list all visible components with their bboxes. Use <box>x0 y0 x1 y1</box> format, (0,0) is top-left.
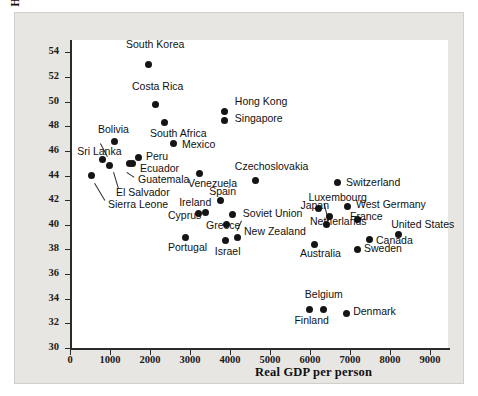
data-point[interactable] <box>152 101 159 108</box>
y-axis-line <box>70 40 72 350</box>
y-tick-mark <box>65 323 70 324</box>
data-point-label: Mexico <box>182 138 215 150</box>
data-point[interactable] <box>145 61 152 68</box>
data-point[interactable] <box>88 172 95 179</box>
y-tick-mark <box>65 151 70 152</box>
x-tick-label: 7000 <box>330 354 370 365</box>
data-point[interactable] <box>161 119 168 126</box>
data-point[interactable] <box>126 160 133 167</box>
data-point-label: El Salvador <box>116 186 170 198</box>
chart-figure: Hours of work per week 30323436384042444… <box>15 13 463 383</box>
x-tick-label: 0 <box>50 354 90 365</box>
x-tick-label: 2000 <box>130 354 170 365</box>
data-point[interactable] <box>306 306 313 313</box>
x-axis-title: Real GDP per person <box>255 365 372 380</box>
x-tick-label: 8000 <box>370 354 410 365</box>
y-tick-mark <box>65 274 70 275</box>
x-axis-line <box>70 348 450 350</box>
x-tick-label: 4000 <box>210 354 250 365</box>
y-tick-label: 36 <box>37 267 59 278</box>
data-point-label: Costa Rica <box>132 80 183 92</box>
y-axis-title-line1: Hours of work <box>9 0 22 31</box>
data-point-label: Ireland <box>179 196 211 208</box>
data-point[interactable] <box>343 310 350 317</box>
data-point[interactable] <box>221 117 228 124</box>
y-tick-label: 46 <box>37 144 59 155</box>
data-point[interactable] <box>170 140 177 147</box>
y-tick-label: 52 <box>37 70 59 81</box>
data-point-label: Israel <box>215 245 241 257</box>
data-point[interactable] <box>202 209 209 216</box>
data-point-label: Sierra Leone <box>108 198 168 210</box>
data-point-label: Japan <box>300 199 329 211</box>
data-point-label: Czechoslovakia <box>235 160 309 172</box>
y-tick-label: 44 <box>37 169 59 180</box>
data-point[interactable] <box>182 234 189 241</box>
data-point-label: Peru <box>146 150 168 162</box>
y-tick-mark <box>65 176 70 177</box>
x-tick-label: 6000 <box>290 354 330 365</box>
data-point[interactable] <box>135 154 142 161</box>
x-tick-label: 9000 <box>410 354 450 365</box>
y-axis-title: Hours of work per week <box>9 0 35 31</box>
data-point-label: South Korea <box>126 38 184 50</box>
y-tick-label: 30 <box>37 341 59 352</box>
data-point[interactable] <box>320 306 327 313</box>
y-tick-label: 34 <box>37 292 59 303</box>
data-point-label: Portugal <box>168 241 207 253</box>
y-tick-label: 50 <box>37 95 59 106</box>
data-point-label: Denmark <box>353 305 396 317</box>
data-point-label: Hong Kong <box>235 95 288 107</box>
y-tick-mark <box>65 126 70 127</box>
data-point-label: Australia <box>300 247 341 259</box>
data-point-label: New Zealand <box>244 225 306 237</box>
data-point-label: Bolivia <box>98 123 129 135</box>
data-point-label: Belgium <box>305 288 343 300</box>
data-point-label: Spain <box>209 185 236 197</box>
data-point-label: United States <box>391 218 454 230</box>
y-tick-label: 38 <box>37 242 59 253</box>
data-point[interactable] <box>111 138 118 145</box>
y-tick-mark <box>65 348 70 349</box>
data-point-label: Soviet Union <box>243 207 303 219</box>
data-point-label: Cyprus <box>168 209 201 221</box>
data-point[interactable] <box>222 237 229 244</box>
data-point[interactable] <box>106 162 113 169</box>
y-tick-mark <box>65 200 70 201</box>
data-point-label: Finland <box>294 314 328 326</box>
data-point[interactable] <box>217 197 224 204</box>
y-tick-mark <box>65 249 70 250</box>
data-point[interactable] <box>234 234 241 241</box>
data-point[interactable] <box>344 203 351 210</box>
y-tick-label: 32 <box>37 316 59 327</box>
y-tick-mark <box>65 225 70 226</box>
x-tick-label: 3000 <box>170 354 210 365</box>
data-point-label: Sri Lanka <box>77 145 121 157</box>
data-point[interactable] <box>221 108 228 115</box>
y-tick-mark <box>65 52 70 53</box>
y-axis-title-line2: per week <box>22 0 35 31</box>
x-tick-label: 5000 <box>250 354 290 365</box>
data-point-label: Guatemala <box>138 173 189 185</box>
y-tick-label: 48 <box>37 119 59 130</box>
data-point-label: Greece <box>206 219 240 231</box>
data-point[interactable] <box>252 177 259 184</box>
y-tick-label: 42 <box>37 193 59 204</box>
data-point[interactable] <box>196 170 203 177</box>
data-point-label: Singapore <box>235 112 283 124</box>
y-tick-mark <box>65 299 70 300</box>
y-tick-label: 40 <box>37 218 59 229</box>
data-point-label: Netherlands <box>310 215 367 227</box>
x-tick-label: 1000 <box>90 354 130 365</box>
y-tick-mark <box>65 102 70 103</box>
y-tick-mark <box>65 77 70 78</box>
data-point[interactable] <box>354 246 361 253</box>
data-point-label: Sweden <box>364 242 402 254</box>
data-point-label: Switzerland <box>346 176 400 188</box>
data-point-label: West Germany <box>356 198 426 210</box>
y-tick-label: 54 <box>37 45 59 56</box>
